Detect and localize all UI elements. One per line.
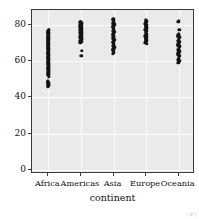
- data-point: [177, 32, 180, 35]
- y-tick-label: 20: [0, 128, 26, 138]
- data-point: [178, 28, 181, 31]
- x-tick-mark: [80, 173, 81, 176]
- x-tick-mark: [178, 173, 179, 176]
- plot-area: [31, 9, 194, 173]
- y-tick-label: 60: [0, 55, 26, 65]
- x-tick-label-africa: Africa: [35, 178, 60, 188]
- data-point: [80, 49, 83, 52]
- data-point: [47, 28, 50, 31]
- data-point: [177, 19, 180, 22]
- x-tick-mark: [47, 173, 48, 176]
- corner-watermark: [#]: [187, 211, 196, 217]
- x-tick-label-europe: Europe: [130, 178, 160, 188]
- x-tick-label-oceania: Oceania: [161, 178, 195, 188]
- y-tick-label: 40: [0, 91, 26, 101]
- gridline-horizontal: [32, 61, 193, 62]
- gridline-horizontal: [32, 134, 193, 135]
- gridline-horizontal: [32, 170, 193, 171]
- x-tick-mark: [113, 173, 114, 176]
- chart-figure: life_expectancy 020406080 AfricaAmericas…: [0, 0, 199, 219]
- y-tick-label: 0: [0, 164, 26, 174]
- x-axis-title: continent: [30, 192, 195, 203]
- data-point: [79, 54, 82, 57]
- y-tick-label: 80: [0, 19, 26, 29]
- x-tick-label-asia: Asia: [104, 178, 122, 188]
- x-tick-mark: [145, 173, 146, 176]
- x-tick-label-americas: Americas: [61, 178, 100, 188]
- gridline-horizontal: [32, 97, 193, 98]
